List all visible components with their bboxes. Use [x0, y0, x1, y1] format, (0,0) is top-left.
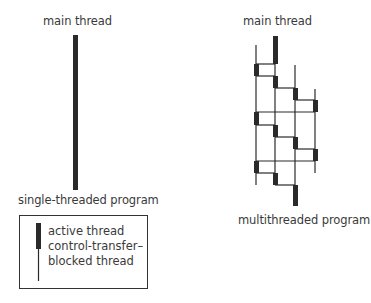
legend-box: active thread control-transfer– blocked … — [19, 215, 148, 289]
active-thread-segments — [254, 36, 318, 206]
active-segment — [254, 112, 259, 125]
legend-active-label: active thread — [48, 224, 124, 238]
active-segment — [293, 137, 298, 149]
active-segment — [273, 125, 278, 137]
active-segment — [293, 185, 298, 206]
active-segment — [273, 173, 278, 185]
active-segment — [273, 76, 278, 88]
multithreaded-program-label: multithreaded program — [238, 213, 370, 227]
active-segment — [293, 88, 298, 100]
legend-blocked-label-2: blocked thread — [48, 254, 134, 268]
active-segment — [313, 100, 318, 112]
blocked-thread-lines — [256, 36, 315, 206]
active-segment — [254, 161, 259, 173]
legend-blocked-label-1: control-transfer– — [48, 239, 143, 253]
active-segment — [313, 149, 318, 161]
legend-active-bar — [36, 223, 41, 249]
active-segment — [273, 36, 278, 64]
active-segment — [254, 64, 259, 76]
